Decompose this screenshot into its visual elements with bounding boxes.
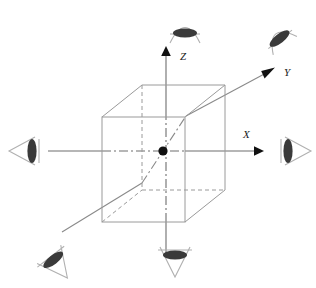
x-axis-arrowhead bbox=[254, 146, 264, 156]
cube-edge-depth-bottom-right bbox=[185, 190, 225, 222]
cube-front-face bbox=[102, 117, 185, 222]
cube-viewing-directions-diagram: X Y Z bbox=[0, 0, 316, 288]
z-axis-arrowhead bbox=[161, 46, 171, 56]
eye-left-pupil-icon bbox=[27, 139, 36, 163]
eye-right-pupil-icon bbox=[283, 139, 292, 163]
eye-bottom-pupil-icon bbox=[163, 250, 187, 259]
origin-dot bbox=[158, 146, 167, 155]
diagram-canvas: X Y Z bbox=[0, 0, 316, 288]
eye-lower-left[interactable] bbox=[36, 244, 81, 288]
eye-lower-left-pupil-icon bbox=[41, 249, 66, 271]
cube-edge-depth-top-right bbox=[185, 85, 225, 117]
eye-top-pupil-icon bbox=[173, 28, 197, 37]
x-axis-label: X bbox=[242, 128, 251, 140]
eye-bottom[interactable] bbox=[158, 247, 192, 277]
y-axis-line-positive bbox=[186, 72, 268, 116]
y-axis-label: Y bbox=[284, 66, 292, 78]
eye-upper-right-pupil-icon bbox=[267, 28, 292, 50]
eye-left[interactable] bbox=[9, 137, 39, 165]
eye-upper-right[interactable] bbox=[264, 25, 297, 55]
eye-right[interactable] bbox=[281, 137, 311, 165]
z-axis-label: Z bbox=[180, 50, 187, 62]
eye-top[interactable] bbox=[170, 28, 200, 44]
y-axis-arrowhead bbox=[261, 68, 275, 79]
cube-edge-depth-top-left bbox=[102, 85, 142, 117]
